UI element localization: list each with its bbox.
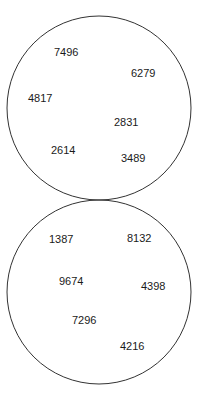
number-label: 7296 — [72, 314, 96, 326]
number-label: 4216 — [120, 340, 144, 352]
top-circle-numbers: 7496 6279 4817 2831 2614 3489 — [28, 46, 155, 164]
number-label: 8132 — [127, 232, 151, 244]
top-circle — [7, 16, 191, 200]
number-label: 4817 — [28, 92, 52, 104]
number-label: 7496 — [54, 46, 78, 58]
number-label: 6279 — [131, 67, 155, 79]
number-label: 9674 — [59, 275, 83, 287]
diagram-canvas: 7496 6279 4817 2831 2614 3489 1387 8132 … — [0, 0, 198, 396]
bottom-circle — [7, 200, 191, 384]
number-label: 2831 — [114, 116, 138, 128]
bottom-circle-numbers: 1387 8132 9674 4398 7296 4216 — [49, 232, 165, 352]
number-label: 4398 — [141, 280, 165, 292]
number-label: 2614 — [51, 144, 75, 156]
number-label: 3489 — [121, 152, 145, 164]
number-label: 1387 — [49, 233, 73, 245]
